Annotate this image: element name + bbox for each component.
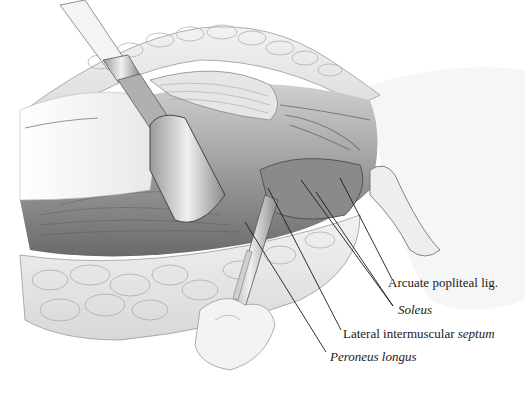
label-soleus: Soleus <box>398 303 432 316</box>
label-text: Soleus <box>398 302 432 317</box>
label-text-italic: septum <box>458 326 495 341</box>
label-peroneus-longus: Peroneus longus <box>330 350 417 363</box>
surgeon-hand <box>195 299 275 370</box>
label-arcuate-popliteal-ligament: Arcuate popliteal lig. <box>388 276 498 289</box>
skin-flap-left <box>20 92 153 200</box>
label-text-plain: Lateral intermuscular <box>343 326 458 341</box>
label-text: Peroneus longus <box>330 349 417 364</box>
label-lateral-intermuscular-septum: Lateral intermuscular septum <box>343 327 495 340</box>
label-text: Arcuate popliteal lig. <box>388 275 498 290</box>
